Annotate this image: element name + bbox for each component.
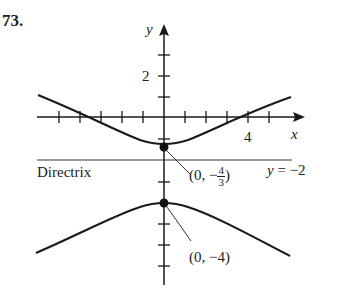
x-axis-label: x: [291, 127, 298, 142]
x-tick-label-4: 4: [244, 130, 252, 145]
upper-leader-line: [167, 151, 191, 175]
upper-vertex-label: (0, −43): [189, 165, 230, 188]
y-tick-label-2: 2: [142, 69, 150, 84]
y-axis-label: y: [146, 22, 153, 37]
directrix-label: Directrix: [37, 165, 91, 180]
lower-branch-curve: [36, 203, 290, 256]
lower-vertex-label: (0, −4): [189, 250, 230, 265]
lower-leader-line: [167, 207, 191, 241]
hyperbola-graph: [0, 0, 347, 292]
lower-vertex-point: [160, 199, 169, 208]
upper-vertex-point: [160, 143, 169, 152]
directrix-equation: y = −2: [267, 163, 306, 178]
